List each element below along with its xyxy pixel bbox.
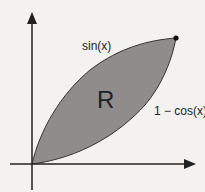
region-label: R (97, 86, 114, 114)
x-axis-arrow-icon (184, 159, 196, 169)
sin-curve-label: sin(x) (82, 39, 111, 53)
one-minus-cos-curve-label: 1 − cos(x) (154, 104, 205, 118)
y-axis-arrow-icon (27, 12, 37, 24)
intersection-point (173, 35, 178, 40)
